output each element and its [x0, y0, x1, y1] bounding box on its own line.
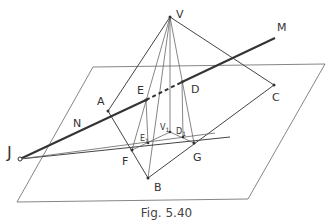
point-f [131, 149, 134, 152]
line-jm-back [182, 38, 275, 82]
label-m: M [277, 21, 287, 34]
label-d: D [191, 83, 199, 96]
point-v [169, 16, 172, 19]
pyramid-projection-diagram: V M A E D C N J F G B E1 V1 D1 [0, 0, 333, 224]
line-jm-front [20, 100, 146, 159]
label-d1: D1 [176, 127, 186, 137]
edge-vg [170, 17, 194, 143]
figure-caption: Fig. 5.40 [0, 206, 333, 220]
point-a [107, 110, 110, 113]
label-f: F [122, 155, 128, 168]
ground-plane [17, 64, 325, 202]
line-f-v1 [132, 132, 170, 150]
point-c [273, 84, 276, 87]
edge-vb [148, 17, 170, 178]
label-v: V [176, 8, 184, 21]
edge-vc [170, 17, 274, 85]
label-c: C [272, 91, 280, 104]
label-e: E [137, 84, 144, 97]
label-v1: V1 [160, 123, 169, 133]
label-n: N [73, 117, 81, 130]
label-g: G [193, 151, 202, 164]
line-jm-hidden [146, 82, 182, 100]
point-j [18, 157, 22, 161]
label-b: B [154, 181, 162, 194]
point-g [193, 142, 196, 145]
point-d [181, 81, 184, 84]
label-a: A [97, 95, 105, 108]
label-j: J [6, 143, 12, 162]
point-e [145, 99, 148, 102]
point-b [147, 177, 150, 180]
